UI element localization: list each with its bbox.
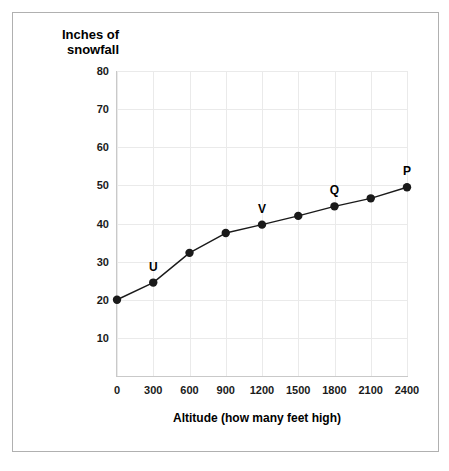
data-point-marker	[113, 296, 121, 304]
y-axis-tick-label: 70	[69, 104, 109, 115]
y-axis-title-line-1: Inches of	[43, 27, 119, 42]
y-axis-tick-label: 50	[69, 180, 109, 191]
y-axis-tick-label: 60	[69, 142, 109, 153]
x-axis-line	[117, 376, 408, 377]
data-point-marker	[403, 183, 411, 191]
data-point-marker	[294, 212, 302, 220]
y-axis-tick-label: 20	[69, 295, 109, 306]
data-point-label-p: P	[392, 165, 422, 177]
data-point-label-u: U	[138, 261, 168, 273]
data-point-marker	[185, 249, 193, 257]
chart-frame: Inches of snowfall 1020304050607080 0300…	[12, 12, 439, 452]
data-point-marker	[258, 220, 266, 228]
x-axis-title: Altitude (how many feet high)	[77, 411, 437, 425]
data-point-marker	[222, 229, 230, 237]
y-axis-title: Inches of snowfall	[43, 27, 119, 57]
y-axis-tick-label: 40	[69, 219, 109, 230]
y-axis-tick-label: 30	[69, 257, 109, 268]
data-point-label-v: V	[247, 203, 277, 215]
y-axis-tick-label: 10	[69, 333, 109, 344]
plot-area	[117, 71, 407, 376]
data-point-label-q: Q	[320, 184, 350, 196]
data-point-marker	[367, 194, 375, 202]
data-point-marker	[330, 202, 338, 210]
y-axis-title-line-2: snowfall	[43, 42, 119, 57]
data-point-marker	[149, 278, 157, 286]
x-axis-tick-label: 2400	[377, 385, 437, 396]
y-axis-tick-label: 80	[69, 66, 109, 77]
data-series-line	[117, 71, 407, 376]
gridline-vertical	[407, 71, 408, 376]
